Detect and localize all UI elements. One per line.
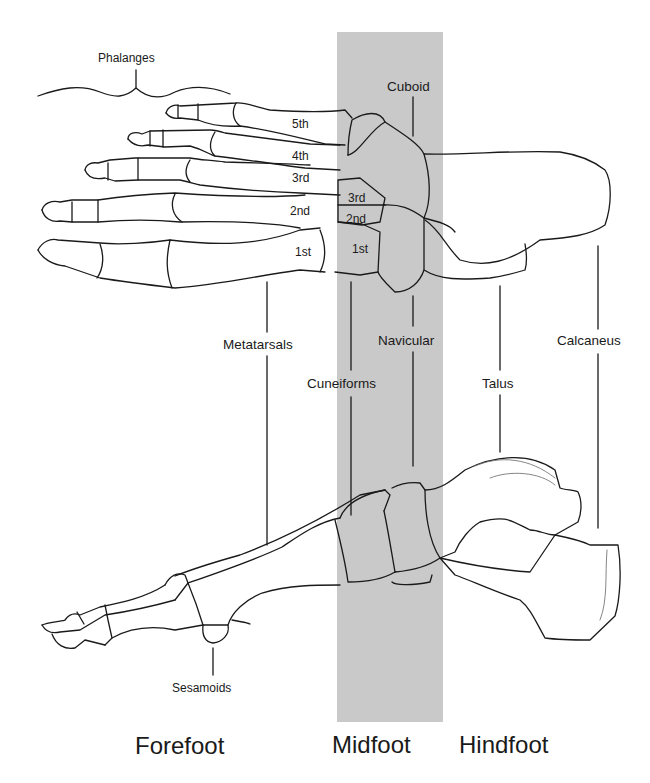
cuneiform-1st-label: 1st [352, 243, 368, 255]
cuneiform-3rd-label: 3rd [348, 192, 365, 204]
foot-skeleton-illustration [0, 0, 650, 783]
cuneiforms-label: Cuneiforms [307, 377, 376, 391]
navicular-label: Navicular [378, 334, 434, 348]
sesamoids-label: Sesamoids [172, 682, 231, 694]
metatarsal-2nd-label: 2nd [290, 205, 310, 217]
phalanges-brace [38, 70, 230, 97]
dorsal-view-foot [38, 103, 610, 292]
lateral-view-foot [42, 458, 620, 649]
midfoot-region-label: Midfoot [332, 733, 411, 757]
talus-label: Talus [482, 377, 514, 391]
metatarsal-1st-label: 1st [295, 246, 311, 258]
cuneiform-2nd-label: 2nd [346, 213, 366, 225]
metatarsal-3rd-label: 3rd [292, 172, 309, 184]
calcaneus-label: Calcaneus [557, 334, 621, 348]
metatarsal-5th-label: 5th [292, 118, 309, 130]
forefoot-region-label: Forefoot [135, 734, 224, 758]
metatarsal-4th-label: 4th [292, 150, 309, 162]
hindfoot-region-label: Hindfoot [459, 733, 548, 757]
cuboid-label: Cuboid [387, 80, 430, 94]
phalanges-label: Phalanges [98, 52, 155, 64]
metatarsals-label: Metatarsals [223, 338, 293, 352]
